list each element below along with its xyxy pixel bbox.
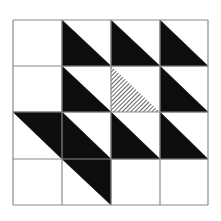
black-triangle [62, 112, 111, 159]
triangle-grid-figure: 4x4 grid of squares with black right tri… [0, 0, 221, 221]
black-triangle [62, 159, 111, 205]
black-triangle [160, 112, 208, 159]
black-triangle [62, 20, 111, 66]
black-triangle [160, 20, 208, 66]
black-triangle [62, 66, 111, 112]
hatched-triangle [111, 66, 160, 112]
black-triangle [111, 112, 160, 159]
black-triangle [13, 112, 62, 159]
black-triangle [160, 66, 208, 112]
black-triangle [111, 20, 160, 66]
grid-diagram [0, 0, 221, 221]
